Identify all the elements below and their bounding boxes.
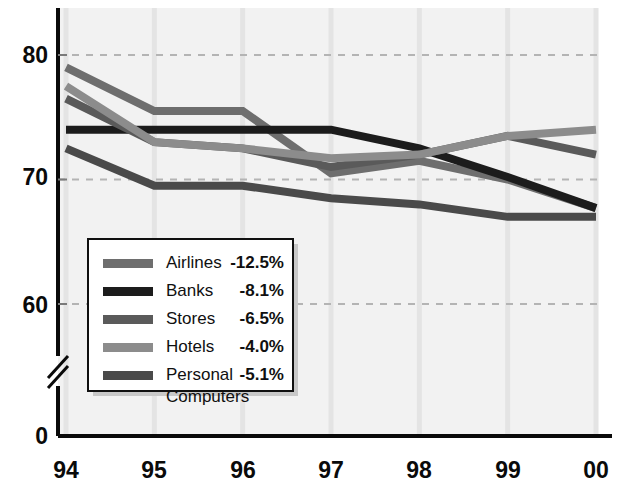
legend-swatch-personal-computers: [103, 371, 153, 380]
x-tick-label-96: 96: [230, 457, 256, 483]
legend-value-hotels: -4.0%: [240, 337, 284, 356]
legend-value-stores: -6.5%: [240, 309, 284, 328]
y-tick-label-60: 60: [22, 292, 48, 318]
x-tick-label-98: 98: [406, 457, 432, 483]
x-tick-label-95: 95: [141, 457, 167, 483]
chart-container: 80 70 60 0 94 95 96 97 98 99 00 Airlines…: [0, 0, 619, 490]
x-tick-label-00: 00: [583, 457, 609, 483]
x-tick-label-99: 99: [495, 457, 521, 483]
legend-swatch-banks: [103, 287, 153, 296]
line-chart: 80 70 60 0 94 95 96 97 98 99 00 Airlines…: [0, 0, 619, 490]
legend-label-personal-computers: Personal: [166, 365, 233, 384]
legend-label-stores: Stores: [166, 309, 215, 328]
legend-label-hotels: Hotels: [166, 337, 214, 356]
legend-label-personal-computers-line2: Computers: [166, 387, 249, 406]
y-tick-label-80: 80: [22, 42, 48, 68]
legend-value-airlines: -12.5%: [230, 253, 284, 272]
legend-swatch-airlines: [103, 259, 153, 268]
legend-label-banks: Banks: [166, 281, 213, 300]
legend-value-personal-computers: -5.1%: [240, 365, 284, 384]
legend-swatch-stores: [103, 315, 153, 324]
legend-swatch-hotels: [103, 343, 153, 352]
legend-value-banks: -8.1%: [240, 281, 284, 300]
x-tick-label-97: 97: [318, 457, 344, 483]
y-tick-label-0: 0: [35, 423, 48, 449]
y-tick-label-70: 70: [22, 164, 48, 190]
x-tick-label-94: 94: [53, 457, 79, 483]
chart-legend: Airlines -12.5% Banks -8.1% Stores -6.5%…: [88, 239, 298, 406]
legend-label-airlines: Airlines: [166, 253, 222, 272]
